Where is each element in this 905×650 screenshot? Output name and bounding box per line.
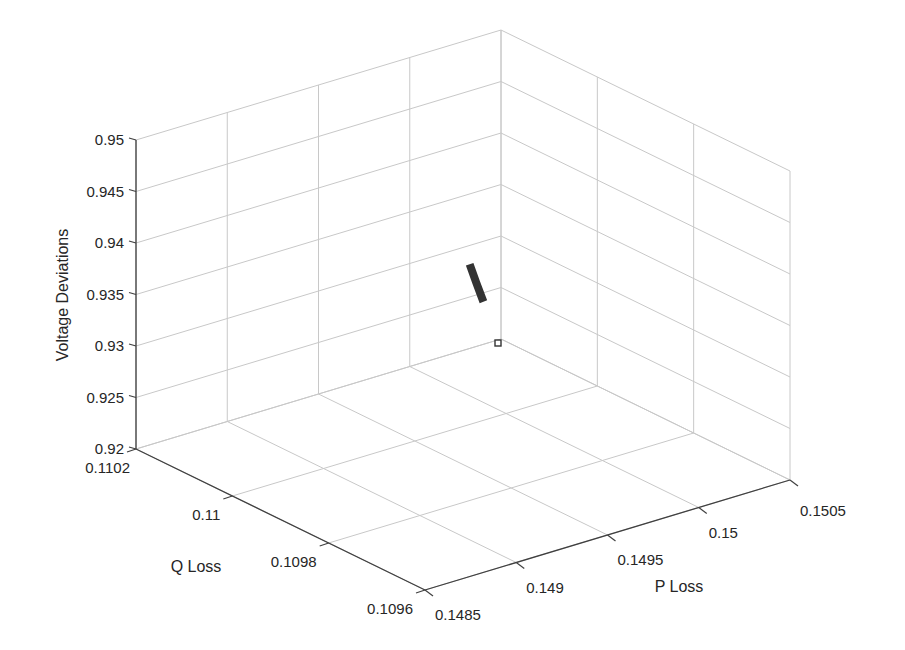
x-tick-label: 0.15 <box>709 524 738 541</box>
z-tick <box>129 241 136 243</box>
z-tick <box>129 138 136 140</box>
x-tick <box>425 590 433 596</box>
y-tick <box>320 543 329 546</box>
z-tick-label: 0.935 <box>86 286 124 303</box>
x-tick <box>608 535 616 541</box>
y-tick-label: 0.1096 <box>367 600 413 617</box>
z-tick <box>129 190 136 192</box>
floor-grid-line <box>319 394 608 535</box>
wall-grid-line <box>501 185 790 326</box>
y-axis-label: Q Loss <box>171 558 222 575</box>
wall-grid-line <box>501 30 790 171</box>
wall-grid-line <box>501 133 790 274</box>
x-tick <box>699 508 707 514</box>
floor-grid-line <box>227 422 516 563</box>
z-tick-label: 0.93 <box>95 337 124 354</box>
wall-grid-line <box>501 339 790 480</box>
wall-grid-line <box>501 236 790 377</box>
y-tick <box>223 496 232 499</box>
x-tick-label: 0.1495 <box>618 551 664 568</box>
pareto-cluster <box>471 268 482 298</box>
z-tick <box>129 396 136 398</box>
floor-grid-line <box>410 367 699 508</box>
wall-grid-line <box>501 82 790 223</box>
z-tick-label: 0.95 <box>95 131 124 148</box>
z-tick-label: 0.925 <box>86 389 124 406</box>
y-tick <box>127 449 136 452</box>
z-tick <box>129 447 136 449</box>
grid-lines <box>136 30 790 590</box>
selected-solution-marker <box>495 340 501 346</box>
z-tick-label: 0.92 <box>95 440 124 457</box>
z-tick <box>129 344 136 346</box>
y-tick-label: 0.1102 <box>85 459 130 476</box>
x-tick-label: 0.1505 <box>800 502 846 519</box>
x-tick-label: 0.1485 <box>435 606 481 623</box>
data-points <box>471 268 501 346</box>
y-tick-label: 0.11 <box>192 506 220 523</box>
z-tick-label: 0.945 <box>86 183 124 200</box>
x-tick <box>516 563 524 569</box>
floor-grid-line <box>232 386 597 496</box>
tick-labels: 0.950.9450.940.9350.930.9250.920.11020.1… <box>85 131 846 623</box>
wall-grid-line <box>501 288 790 429</box>
x-tick <box>790 480 798 486</box>
z-tick <box>129 293 136 295</box>
x-tick-label: 0.149 <box>526 579 564 596</box>
floor-grid-line <box>329 433 694 543</box>
3d-scatter-plot: 0.950.9450.940.9350.930.9250.920.11020.1… <box>0 0 905 650</box>
y-tick-label: 0.1098 <box>271 553 317 570</box>
z-tick-label: 0.94 <box>95 234 124 251</box>
z-axis-label: Voltage Deviations <box>54 229 71 362</box>
y-tick <box>416 590 425 593</box>
x-axis-label: P Loss <box>655 578 704 595</box>
